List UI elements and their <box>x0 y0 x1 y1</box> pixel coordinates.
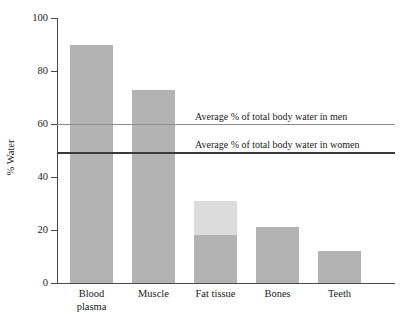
bar-teeth <box>318 251 361 283</box>
bar-fat-tissue <box>194 201 237 283</box>
y-tick-label-40-wrap: 40 <box>0 172 48 182</box>
bar-segment-water-lower-range <box>194 235 237 283</box>
x-category-label-teeth: Teeth <box>295 288 385 301</box>
y-tick-label-80: 80 <box>2 66 48 76</box>
x-axis-line <box>57 283 395 284</box>
y-tick-label-60-wrap: 60 <box>0 119 48 129</box>
reference-line-label-men: Average % of total body water in men <box>195 111 347 122</box>
water-content-bar-chart: % Water 0 20 40 60 80 100 Average % of t… <box>0 0 403 326</box>
y-tick-label-20: 20 <box>2 225 48 235</box>
bar-segment-water <box>318 251 361 283</box>
y-tick-label-80-wrap: 80 <box>0 66 48 76</box>
bar-bones <box>256 227 299 283</box>
y-tick-label-0-wrap: 0 <box>0 278 48 288</box>
bar-segment-water <box>132 90 175 283</box>
reference-line-men <box>57 124 395 125</box>
bar-blood-plasma <box>70 45 113 284</box>
y-tick-label-20-wrap: 20 <box>0 225 48 235</box>
y-tick-label-100: 100 <box>2 13 48 23</box>
bar-segment-water <box>70 45 113 284</box>
bar-muscle <box>132 90 175 283</box>
y-tick-label-100-wrap: 100 <box>0 13 48 23</box>
reference-line-label-women: Average % of total body water in women <box>195 139 359 150</box>
bar-segment-water <box>256 227 299 283</box>
y-tick-label-40: 40 <box>2 172 48 182</box>
reference-line-women <box>57 152 395 154</box>
y-tick-label-60: 60 <box>2 119 48 129</box>
y-tick-label-0: 0 <box>2 278 48 288</box>
bar-segment-water-upper-range <box>194 201 237 235</box>
